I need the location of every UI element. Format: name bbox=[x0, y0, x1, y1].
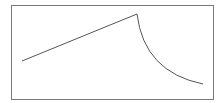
data-line bbox=[22, 14, 203, 84]
line-chart bbox=[0, 0, 222, 103]
